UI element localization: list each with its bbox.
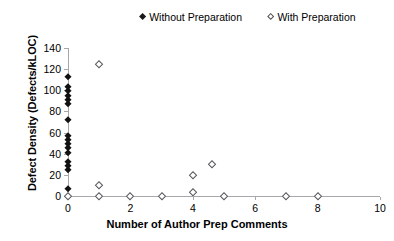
y-tick-label: 140	[35, 42, 61, 54]
data-point-with-preparation	[95, 60, 103, 68]
y-tick-label: 60	[35, 127, 61, 139]
legend-label-without-preparation: Without Preparation	[149, 12, 242, 23]
x-tick-label: 2	[127, 202, 133, 214]
data-point-with-preparation	[95, 192, 103, 200]
x-axis-title: Number of Author Prep Comments	[0, 218, 394, 230]
data-point-without-preparation	[64, 116, 72, 124]
y-tick-mark	[64, 175, 68, 176]
data-point-without-preparation	[64, 100, 72, 108]
data-point-with-preparation	[189, 171, 197, 179]
y-tick-mark	[64, 48, 68, 49]
legend-item-with-preparation: With Preparation	[268, 12, 356, 23]
x-tick-mark	[193, 197, 194, 200]
data-point-with-preparation	[208, 160, 216, 168]
y-tick-mark	[64, 69, 68, 70]
data-point-with-preparation	[314, 192, 322, 200]
legend-label-with-preparation: With Preparation	[277, 12, 355, 23]
scatter-plot-figure: Without Preparation With Preparation Def…	[0, 0, 394, 241]
data-point-with-preparation	[220, 192, 228, 200]
x-tick-label: 4	[190, 202, 196, 214]
legend-item-without-preparation: Without Preparation	[140, 12, 242, 23]
y-tick-label: 120	[35, 63, 61, 75]
data-point-with-preparation	[189, 188, 197, 196]
x-tick-label: 6	[252, 202, 258, 214]
filled-diamond-marker-icon	[139, 13, 146, 20]
data-point-with-preparation	[126, 192, 134, 200]
plot-area: 020406080100120140 0246810	[68, 48, 380, 197]
y-tick-label: 80	[35, 105, 61, 117]
x-tick-mark	[255, 197, 256, 200]
x-tick-mark	[380, 197, 381, 200]
x-tick-label: 10	[374, 202, 386, 214]
data-point-with-preparation	[282, 192, 290, 200]
chart-legend: Without Preparation With Preparation	[140, 9, 390, 25]
y-tick-label: 100	[35, 84, 61, 96]
y-tick-label: 40	[35, 148, 61, 160]
data-point-without-preparation	[64, 73, 72, 81]
open-diamond-marker-icon	[267, 13, 275, 21]
data-point-with-preparation	[95, 181, 103, 189]
data-point-with-preparation	[64, 192, 72, 200]
y-tick-label: 20	[35, 169, 61, 181]
y-tick-mark	[64, 111, 68, 112]
x-tick-label: 8	[315, 202, 321, 214]
y-tick-label: 0	[35, 190, 61, 202]
data-point-with-preparation	[158, 192, 166, 200]
data-point-without-preparation	[64, 149, 72, 157]
x-tick-label: 0	[65, 202, 71, 214]
